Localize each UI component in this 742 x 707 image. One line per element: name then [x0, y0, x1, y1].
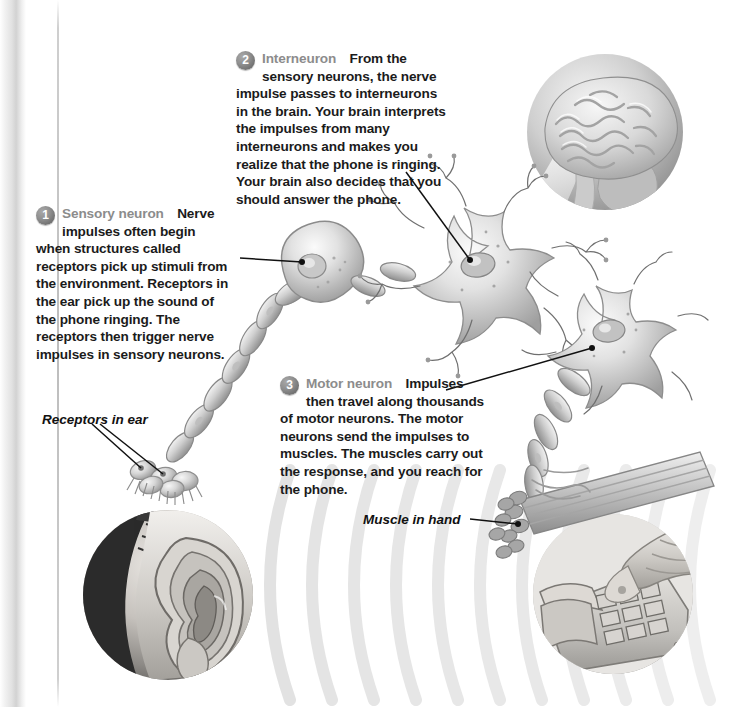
callout-body: Impulses then travel along thousands of … — [280, 376, 484, 497]
leader-line-sensory — [240, 258, 302, 262]
leader-line-receptors-a — [92, 424, 141, 468]
ear-inset — [83, 508, 271, 681]
page-gutter-shadow — [0, 0, 26, 707]
callout-term: Sensory neuron — [62, 206, 177, 221]
callout-number-badge: 3 — [280, 376, 299, 395]
sound-waves — [270, 470, 710, 700]
brain-inset — [520, 54, 683, 234]
label-receptors-in-ear: Receptors in ear — [42, 412, 148, 427]
hand-phone-inset — [533, 514, 704, 674]
label-muscle-in-hand: Muscle in hand — [363, 512, 461, 527]
callout-term: Interneuron — [262, 51, 350, 66]
callout-number-badge: 2 — [236, 51, 255, 70]
hair-cell-receptors — [92, 424, 202, 505]
figure-page: 2Interneuron From the sensory neurons, t… — [0, 0, 742, 707]
callout-body: From the sensory neurons, the nerve impu… — [236, 51, 446, 207]
callout-sensory-neuron: 1Sensory neuron Nerve impulses often beg… — [36, 205, 232, 363]
callout-number-badge: 1 — [36, 206, 55, 225]
callout-motor-neuron: 3Motor neuron Impulses then travel along… — [280, 375, 490, 498]
callout-interneuron: 2Interneuron From the sensory neurons, t… — [236, 50, 448, 208]
leader-line-receptors-b — [100, 424, 163, 474]
callout-body: Nerve impulses often begin when structur… — [36, 206, 228, 362]
callout-term: Motor neuron — [306, 376, 406, 391]
leader-line-muscle — [470, 519, 518, 524]
muscle-bundle — [470, 452, 714, 560]
